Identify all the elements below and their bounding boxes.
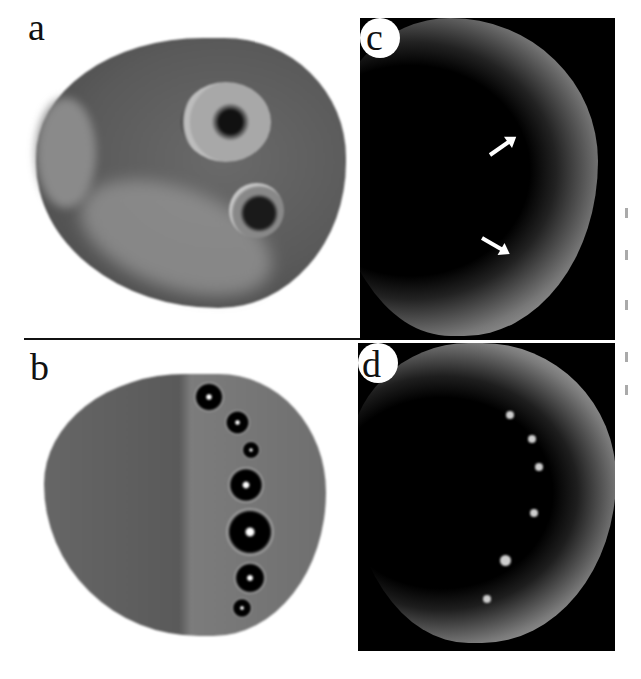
- panel-a: a: [0, 0, 358, 340]
- panel-d: d: [358, 343, 615, 651]
- eyespot-small: [229, 183, 284, 238]
- spot: [506, 411, 514, 419]
- wing-image-b: [44, 374, 326, 636]
- eyespot-3: [242, 441, 260, 459]
- cropped-text-fragment: [625, 250, 628, 260]
- eyespot-4: [228, 467, 264, 503]
- eyespot-6: [234, 562, 266, 594]
- wing-image-a: [36, 38, 346, 308]
- panel-label-d: d: [362, 345, 381, 383]
- cropped-text-fragment: [625, 208, 628, 218]
- eyespot-2: [225, 410, 250, 435]
- panel-b: b: [0, 342, 358, 679]
- eyespot-large: [181, 82, 271, 162]
- spot: [530, 509, 538, 517]
- wing-inner-margin: [65, 157, 287, 319]
- eyespot-5: [226, 508, 274, 556]
- spot: [535, 463, 543, 471]
- wing-base: [36, 98, 96, 208]
- eyespot-1: [194, 382, 224, 412]
- eyespot-7: [232, 598, 252, 618]
- panel-label-c: c: [366, 18, 383, 56]
- spot: [528, 435, 536, 443]
- panel-c: c: [360, 18, 615, 340]
- cropped-text-fragment: [625, 352, 628, 362]
- horizontal-divider: [24, 338, 360, 340]
- wing-disc-image-c: [360, 18, 598, 336]
- spot: [500, 555, 511, 566]
- panel-label-a: a: [28, 8, 45, 46]
- panel-label-b: b: [30, 348, 49, 386]
- spot: [483, 595, 491, 603]
- cropped-text-fragment: [625, 385, 628, 395]
- cropped-text-fragment: [625, 300, 628, 310]
